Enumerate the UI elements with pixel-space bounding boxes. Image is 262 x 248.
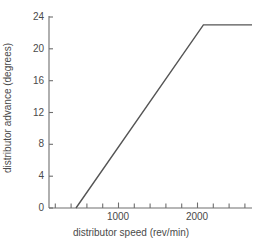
x-tick-label-2000: 2000 [186, 212, 208, 222]
y-tick-label-8: 8 [26, 139, 44, 149]
y-tick-label-24: 24 [26, 12, 44, 22]
y-tick-label-20: 20 [26, 44, 44, 54]
y-axis-title: distributor advance (degrees) [3, 42, 13, 172]
y-axis-title-wrapper: distributor advance (degrees) [0, 0, 16, 215]
data-series-line [76, 25, 252, 208]
y-tick-label-4: 4 [26, 171, 44, 181]
y-tick-label-12: 12 [26, 108, 44, 118]
chart-figure: 0 4 8 12 16 20 24 1000 2000 distributor … [0, 0, 262, 248]
x-axis-title: distributor speed (rev/min) [0, 228, 262, 238]
y-axis-ticks [49, 17, 53, 208]
y-tick-label-0: 0 [26, 203, 44, 213]
x-axis-ticks [55, 203, 245, 209]
x-tick-label-1000: 1000 [107, 212, 129, 222]
y-tick-label-16: 16 [26, 76, 44, 86]
